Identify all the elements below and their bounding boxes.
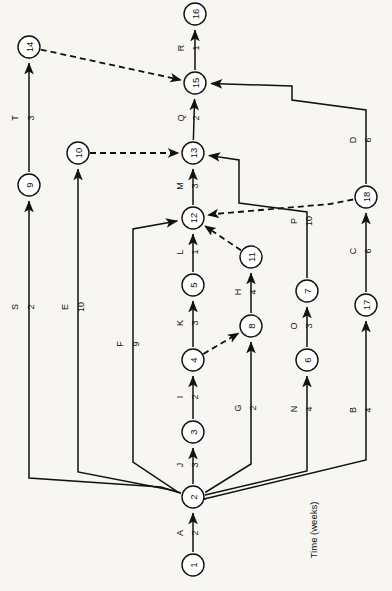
activity-duration-A: 2: [190, 530, 200, 535]
node-label-7: 7: [302, 288, 313, 293]
activity-name-O: O: [289, 322, 299, 329]
node-label-17: 17: [361, 300, 372, 311]
node-16[interactable]: 16: [184, 3, 206, 25]
activity-name-L: L: [175, 249, 185, 254]
node-label-3: 3: [188, 429, 199, 434]
activity-edge-G: [205, 342, 251, 492]
cpm-network-svg: 123456789101112131415161718 A2B4C6D6E10F…: [0, 0, 392, 591]
activity-duration-J: 3: [190, 462, 200, 467]
dummy-edge-18-to-12: [209, 200, 354, 216]
activity-edge-F: [133, 221, 181, 493]
activity-duration-G: 2: [248, 405, 258, 410]
activity-duration-I: 2: [190, 394, 200, 399]
activity-duration-Q: 2: [191, 115, 201, 120]
activity-edge-E: [78, 169, 181, 493]
activity-duration-H: 4: [248, 289, 258, 294]
activity-name-S: S: [10, 304, 20, 310]
activity-edge-D: [211, 84, 366, 185]
node-label-13: 13: [188, 148, 199, 159]
activity-name-F: F: [115, 341, 125, 347]
dummy-edge-4-to-8: [203, 334, 238, 354]
node-2[interactable]: 2: [182, 486, 204, 508]
node-3[interactable]: 3: [182, 421, 204, 443]
node-label-10: 10: [73, 148, 84, 159]
node-label-16: 16: [190, 9, 201, 20]
node-17[interactable]: 17: [355, 294, 377, 316]
network-diagram-canvas: 123456789101112131415161718 A2B4C6D6E10F…: [0, 0, 392, 591]
node-label-4: 4: [188, 357, 199, 362]
activity-duration-M: 3: [190, 183, 200, 188]
activity-name-R: R: [176, 44, 186, 51]
activity-name-Q: Q: [176, 114, 186, 121]
node-10[interactable]: 10: [67, 142, 89, 164]
activity-duration-S: 2: [26, 304, 36, 309]
activity-name-H: H: [233, 289, 243, 296]
activity-name-G: G: [233, 404, 243, 411]
node-7[interactable]: 7: [296, 280, 318, 302]
node-15[interactable]: 15: [184, 72, 206, 94]
node-label-8: 8: [246, 323, 257, 328]
activity-duration-B: 4: [363, 407, 373, 412]
activity-name-B: B: [348, 407, 358, 413]
activity-edge-B: [204, 321, 366, 499]
activity-name-M: M: [175, 182, 185, 190]
activity-duration-F: 9: [131, 341, 141, 346]
node-9[interactable]: 9: [18, 174, 40, 196]
activity-duration-P: 10: [304, 216, 314, 226]
node-18[interactable]: 18: [355, 186, 377, 208]
activity-edge-S: [29, 201, 181, 493]
node-label-2: 2: [188, 494, 199, 499]
node-label-9: 9: [24, 182, 35, 187]
activity-name-A: A: [175, 530, 185, 536]
node-label-11: 11: [246, 252, 257, 262]
activity-name-C: C: [348, 247, 358, 254]
activity-duration-R: 1: [191, 45, 201, 50]
dummy-edge-11-to-12: [205, 226, 241, 250]
time-units-label: Time (weeks): [308, 502, 319, 559]
node-13[interactable]: 13: [182, 142, 204, 164]
activity-name-J: J: [175, 463, 185, 468]
node-14[interactable]: 14: [18, 36, 40, 58]
node-1[interactable]: 1: [182, 554, 204, 576]
activity-duration-T: 3: [26, 115, 36, 120]
node-label-5: 5: [188, 282, 199, 287]
node-12[interactable]: 12: [182, 207, 204, 229]
node-5[interactable]: 5: [182, 274, 204, 296]
activity-duration-D: 6: [363, 137, 373, 142]
node-label-1: 1: [188, 562, 199, 567]
node-label-12: 12: [188, 213, 199, 224]
activity-duration-O: 3: [304, 323, 314, 328]
node-8[interactable]: 8: [240, 315, 262, 337]
node-4[interactable]: 4: [182, 349, 204, 371]
activity-name-T: T: [10, 115, 20, 121]
activity-duration-K: 3: [190, 320, 200, 325]
node-label-14: 14: [24, 42, 35, 53]
activity-duration-C: 6: [363, 248, 373, 253]
node-label-15: 15: [190, 78, 201, 89]
node-6[interactable]: 6: [296, 349, 318, 371]
node-11[interactable]: 11: [240, 246, 262, 268]
activity-duration-E: 10: [76, 302, 86, 312]
node-label-18: 18: [361, 192, 372, 203]
activity-name-N: N: [289, 406, 299, 413]
activity-name-P: P: [289, 218, 299, 224]
dummy-edge-14-to-15: [41, 50, 181, 80]
activity-duration-N: 4: [304, 406, 314, 411]
activity-name-D: D: [348, 136, 358, 143]
activity-duration-L: 1: [190, 249, 200, 254]
node-label-6: 6: [302, 357, 313, 362]
activity-name-K: K: [175, 320, 185, 326]
activity-name-I: I: [175, 396, 185, 399]
activity-name-E: E: [60, 304, 70, 310]
nodes-layer: 123456789101112131415161718: [18, 3, 377, 576]
